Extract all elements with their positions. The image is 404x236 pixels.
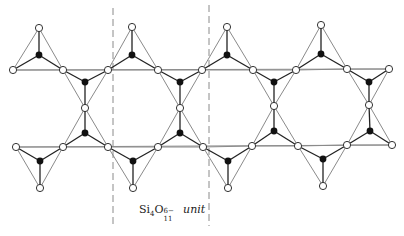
si-o-bond [228,146,252,161]
tetrahedron-edge [347,69,369,105]
tetrahedron-edge [252,106,274,146]
si-o-bond [39,55,63,70]
tetrahedron-edge [40,147,63,188]
oxygen-atom-icon [128,23,135,30]
si-o-bond [227,55,253,70]
oxygen-atom-icon [81,104,88,111]
tetrahedron-edge [202,27,227,70]
silicon-atom-icon [318,51,325,58]
oxygen-atom-icon [343,141,350,148]
oxygen-atom-icon [248,142,255,149]
oxygen-atom-icon [249,66,256,73]
oxygen-atom-icon [104,66,111,73]
si-o-bond [13,55,39,70]
si-o-bond [108,55,132,70]
oxygen-atom-icon [59,143,66,150]
oxygen-atom-icon [59,66,66,73]
oxygen-atom-icon [365,101,372,108]
formula-si-subscript: 4 [150,210,154,218]
oxygen-atoms [9,21,395,191]
silicon-atom-icon [224,52,231,59]
tetrahedron-edge [133,147,158,188]
oxygen-atom-icon [317,21,324,28]
silicon-atom-icon [225,158,232,165]
tetrahedron-edge [16,147,40,188]
silicon-atom-icon [320,156,327,163]
silicon-atom-icon [271,128,278,135]
oxygen-atom-icon [223,23,230,30]
tetrahedron-edge [13,28,39,70]
silicon-atom-icon [129,52,136,59]
oxygen-atom-icon [292,66,299,73]
silicon-atom-icon [37,158,44,165]
tetrahedron-edge [203,147,228,188]
tetrahedron-edge [180,108,203,147]
oxygen-atom-icon [104,143,111,150]
tetrahedron-edge [323,145,347,186]
unit-cell-dividers [113,5,209,226]
tetrahedron-edge [369,69,389,105]
tetrahedron-edge [158,108,180,147]
tetrahedron-edge [369,105,392,145]
oxygen-atom-icon [12,143,19,150]
oxygen-atom-icon [385,65,392,72]
tetrahedron-edge [274,106,298,146]
si-o-bond [274,131,298,146]
unit-word: unit [183,203,205,216]
si-o-bond [132,55,158,70]
tetrahedron-edge [227,27,253,70]
oxygen-atom-icon [154,66,161,73]
oxygen-atom-icon [129,184,136,191]
oxygen-atom-icon [294,142,301,149]
oxygen-atom-icon [388,141,395,148]
oxygen-atom-icon [176,104,183,111]
tetrahedron-edge [296,25,321,70]
si-o-bond [202,55,227,70]
silicon-atom-icon [36,52,43,59]
oxygen-atom-icon [319,182,326,189]
oxygen-atom-icon [154,143,161,150]
tetrahedron-edge [63,108,85,147]
formula-si: Si [139,203,150,216]
tetrahedron-edge [108,147,133,188]
silicon-atom-icon [130,158,137,165]
oxygen-atom-icon [343,65,350,72]
oxygen-atom-icon [198,66,205,73]
tetrahedron-edge [132,27,158,70]
oxygen-atom-icon [199,143,206,150]
silicate-double-chain-diagram: Si4O6−11 unit [0,0,404,236]
oxygen-atom-icon [35,24,42,31]
oxygen-atom-icon [270,102,277,109]
tetrahedron-edge [321,25,347,69]
silicon-atom-icon [177,130,184,137]
tetrahedron-edge [228,146,252,188]
formula-charge-superscript: 6− [164,207,174,215]
tetrahedron-edge [39,28,63,70]
tetrahedron-edge [108,27,132,70]
oxygen-atom-icon [224,184,231,191]
silicon-atom-icon [82,130,89,137]
silicon-atom-icon [367,128,374,135]
chain-structure-drawing [0,0,404,236]
si-o-bond [296,54,321,70]
silicon-atom-icon [82,79,89,86]
tetrahedron-outlines [13,25,392,188]
silicon-atom-icon [177,79,184,86]
unit-formula-label: Si4O6−11 unit [139,203,205,216]
formula-o: O [155,203,164,216]
oxygen-atom-icon [9,66,16,73]
tetrahedron-edge [85,108,108,147]
formula-o-subscript: 11 [164,215,173,223]
silicon-atom-icon [366,79,373,86]
oxygen-atom-icon [36,184,43,191]
silicon-atom-icon [271,79,278,86]
